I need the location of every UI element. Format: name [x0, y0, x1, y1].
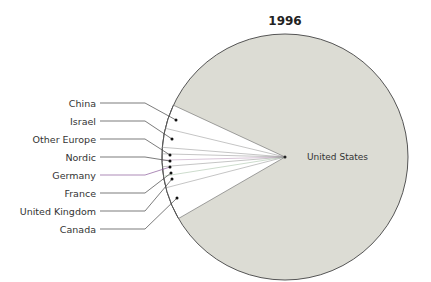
- pie-center: [284, 156, 287, 159]
- label-united-kingdom: United Kingdom: [20, 206, 96, 217]
- label-china: China: [69, 98, 96, 109]
- label-other-europe: Other Europe: [33, 134, 96, 145]
- label-israel: Israel: [70, 116, 96, 127]
- label-france: France: [64, 188, 96, 199]
- label-nordic: Nordic: [65, 152, 96, 163]
- chart-title: 1996: [260, 14, 310, 28]
- label-united-states: United States: [307, 152, 368, 162]
- label-germany: Germany: [52, 170, 96, 181]
- label-canada: Canada: [60, 224, 96, 235]
